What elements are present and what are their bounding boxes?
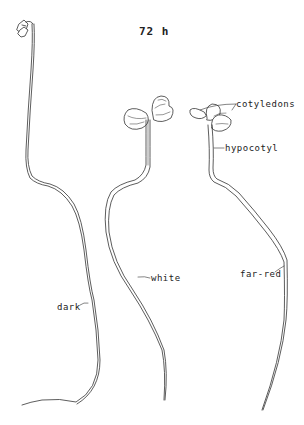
figure-title: 72 h: [139, 25, 170, 38]
hypocotyl-label: hypocotyl: [225, 143, 278, 153]
dark-seedling: [17, 20, 100, 405]
dark-cotyledons: [17, 20, 33, 37]
white-label: white: [151, 273, 181, 283]
white-cotyledons: [124, 96, 173, 129]
white-seedling: [105, 96, 173, 400]
far-red-label: far-red: [240, 269, 281, 279]
seedling-figure: 72 h cotyledons hypocotyl dark white far…: [0, 0, 304, 425]
seedlings-drawing: [0, 0, 304, 425]
dark-label: dark: [57, 302, 81, 312]
cotyledons-label: cotyledons: [236, 99, 295, 109]
far-red-cotyledons: [190, 104, 236, 131]
